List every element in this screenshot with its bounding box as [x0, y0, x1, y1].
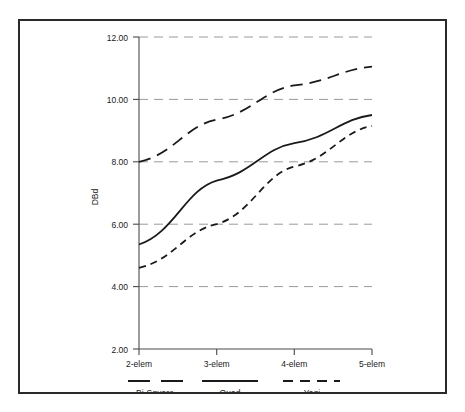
y-tick-label-12: 12.00 [107, 33, 129, 43]
series-line-bi-square [139, 67, 372, 162]
legend-item-bi-square[interactable]: Bi-Square [128, 381, 183, 392]
y-tick-label-8: 8.00 [111, 157, 128, 167]
y-tick-label-10: 10.00 [107, 95, 129, 105]
legend-label-quad: Quad [220, 388, 241, 392]
axes [139, 37, 372, 349]
x-tick-label-5elem: 5-elem [359, 359, 385, 369]
x-tick-label-4elem: 4-elem [281, 359, 307, 369]
x-tick-label-3elem: 3-elem [204, 359, 230, 369]
series-line-quad [139, 115, 372, 244]
x-tick-label-2elem: 2-elem [126, 359, 152, 369]
legend-item-quad[interactable]: Quad [202, 381, 258, 392]
x-axis-ticks [139, 349, 372, 355]
page-canvas: 12.00 10.00 8.00 6.00 4.00 2.00 DBd 2-el… [0, 0, 465, 412]
data-series-group [139, 67, 372, 268]
y-tick-label-2: 2.00 [111, 345, 128, 355]
series-line-yagi [139, 126, 372, 268]
line-chart: 12.00 10.00 8.00 6.00 4.00 2.00 DBd 2-el… [20, 21, 445, 392]
chart-figure-frame: 12.00 10.00 8.00 6.00 4.00 2.00 DBd 2-el… [18, 19, 447, 394]
y-tick-label-6: 6.00 [111, 220, 128, 230]
y-axis-title: DBd [90, 188, 100, 205]
legend-label-bi-square: Bi-Square [136, 388, 174, 392]
y-axis-ticks [133, 37, 139, 349]
y-tick-label-4: 4.00 [111, 282, 128, 292]
legend-item-yagi[interactable]: Yagi [283, 381, 340, 392]
y-axis-tick-labels: 12.00 10.00 8.00 6.00 4.00 2.00 [107, 33, 129, 355]
chart-legend: Bi-Square Quad Yagi [128, 381, 340, 392]
x-axis-tick-labels: 2-elem 3-elem 4-elem 5-elem [126, 359, 385, 369]
legend-label-yagi: Yagi [304, 388, 320, 392]
